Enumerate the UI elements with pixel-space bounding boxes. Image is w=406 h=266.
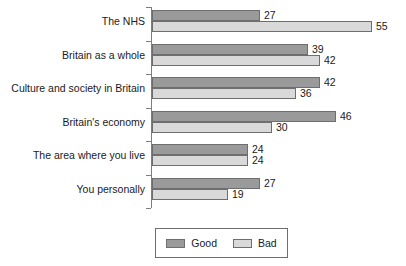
bar-row-good: 24 bbox=[152, 144, 406, 155]
bar-good[interactable] bbox=[152, 77, 320, 88]
bar-bad[interactable] bbox=[152, 122, 272, 133]
bar-value-label: 39 bbox=[312, 43, 324, 55]
bar-row-bad: 19 bbox=[152, 189, 406, 200]
bar-row-good: 42 bbox=[152, 77, 406, 88]
bar-value-label: 27 bbox=[264, 9, 276, 21]
plot-area: The NHS2755Britain as a whole3942Culture… bbox=[0, 0, 406, 215]
bar-value-label: 30 bbox=[276, 121, 288, 133]
bar-group: The NHS2755 bbox=[0, 7, 406, 41]
axis-tick bbox=[146, 208, 151, 209]
bar-bad[interactable] bbox=[152, 189, 228, 200]
bar-value-label: 27 bbox=[264, 177, 276, 189]
bar-group: The area where you live2424 bbox=[0, 141, 406, 175]
category-label: The area where you live bbox=[0, 149, 145, 161]
bar-row-bad: 24 bbox=[152, 155, 406, 166]
bar-bad[interactable] bbox=[152, 21, 372, 32]
chart-legend: Good Bad bbox=[155, 228, 288, 258]
bar-row-good: 27 bbox=[152, 10, 406, 21]
legend-item-bad[interactable]: Bad bbox=[233, 237, 277, 249]
bar-row-bad: 42 bbox=[152, 55, 406, 66]
legend-swatch-good-icon bbox=[166, 239, 185, 248]
bar-good[interactable] bbox=[152, 178, 260, 189]
legend-label-good: Good bbox=[191, 237, 217, 249]
bar-bad[interactable] bbox=[152, 88, 296, 99]
bar-group: Britain's economy4630 bbox=[0, 108, 406, 142]
bar-row-bad: 36 bbox=[152, 88, 406, 99]
bar-row-good: 27 bbox=[152, 178, 406, 189]
legend-swatch-bad-icon bbox=[233, 239, 252, 248]
bar-group: Britain as a whole3942 bbox=[0, 41, 406, 75]
category-label: Britain's economy bbox=[0, 116, 145, 128]
bar-good[interactable] bbox=[152, 111, 336, 122]
legend-item-good[interactable]: Good bbox=[166, 237, 217, 249]
bar-value-label: 24 bbox=[252, 154, 264, 166]
bar-good[interactable] bbox=[152, 144, 248, 155]
bar-bad[interactable] bbox=[152, 55, 320, 66]
category-label: Culture and society in Britain bbox=[0, 82, 145, 94]
bar-chart: The NHS2755Britain as a whole3942Culture… bbox=[0, 0, 406, 266]
bar-value-label: 42 bbox=[324, 76, 336, 88]
category-label: Britain as a whole bbox=[0, 49, 145, 61]
bar-bad[interactable] bbox=[152, 155, 248, 166]
bar-group: Culture and society in Britain4236 bbox=[0, 74, 406, 108]
bar-good[interactable] bbox=[152, 44, 308, 55]
bar-value-label: 55 bbox=[376, 20, 388, 32]
bar-good[interactable] bbox=[152, 10, 260, 21]
category-label: The NHS bbox=[0, 15, 145, 27]
category-label: You personally bbox=[0, 183, 145, 195]
bar-row-bad: 55 bbox=[152, 21, 406, 32]
bar-value-label: 42 bbox=[324, 54, 336, 66]
bar-row-bad: 30 bbox=[152, 122, 406, 133]
bar-row-good: 39 bbox=[152, 44, 406, 55]
bar-group: You personally2719 bbox=[0, 175, 406, 209]
bar-value-label: 46 bbox=[340, 110, 352, 122]
bar-value-label: 19 bbox=[232, 188, 244, 200]
legend-label-bad: Bad bbox=[258, 237, 277, 249]
bar-value-label: 36 bbox=[300, 87, 312, 99]
